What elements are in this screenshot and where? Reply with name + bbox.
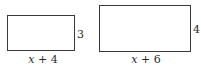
small-rectangle-height-label: 3 xyxy=(77,29,84,40)
large-rectangle xyxy=(99,5,191,52)
large-rectangle-width-label: x + 6 xyxy=(124,54,168,65)
small-rectangle-width-label: x + 4 xyxy=(22,54,64,65)
small-rectangle xyxy=(7,15,75,51)
width-offset: + 6 xyxy=(138,53,161,66)
width-offset: + 4 xyxy=(35,53,58,66)
large-rectangle-height-label: 4 xyxy=(193,24,200,35)
